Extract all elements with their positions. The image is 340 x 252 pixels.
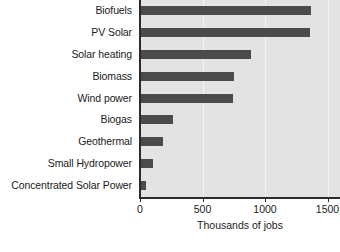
bar-row [140,175,340,197]
x-axis-title: Thousands of jobs [140,219,340,231]
bar-row [140,153,340,175]
category-label: PV Solar [91,22,132,44]
bar [140,94,233,103]
category-axis: BiofuelsPV SolarSolar heatingBiomassWind… [0,0,136,197]
bar [140,28,310,37]
x-tick-mark [328,198,329,202]
bar [140,72,234,81]
category-label: Biofuels [95,0,132,22]
bar-row [140,109,340,131]
bar-row [140,131,340,153]
x-tick-label: 1000 [253,203,276,215]
y-axis-line [139,0,141,198]
bar [140,137,163,146]
bar [140,181,146,190]
bar-row [140,66,340,88]
plot-area [140,0,340,197]
bar-row [140,88,340,110]
x-tick-label: 500 [194,203,212,215]
bar-row [140,0,340,22]
category-label: Biogas [100,109,132,131]
bar [140,159,153,168]
category-label: Biomass [92,66,132,88]
bar [140,115,173,124]
bar-row [140,44,340,66]
x-tick-label: 1500 [316,203,339,215]
category-label: Wind power [78,88,132,110]
bar-chart-figure: BiofuelsPV SolarSolar heatingBiomassWind… [0,0,340,252]
category-label: Concentrated Solar Power [11,175,132,197]
bar [140,50,251,59]
bar [140,6,311,15]
x-tick-label: 0 [137,203,143,215]
x-tick-mark [265,198,266,202]
bars-layer [140,0,340,197]
x-tick-mark [203,198,204,202]
category-label: Small Hydropower [48,153,132,175]
bar-row [140,22,340,44]
category-label: Solar heating [71,44,132,66]
category-label: Geothermal [78,131,132,153]
x-axis-line [139,197,340,199]
x-tick-mark [140,198,141,202]
